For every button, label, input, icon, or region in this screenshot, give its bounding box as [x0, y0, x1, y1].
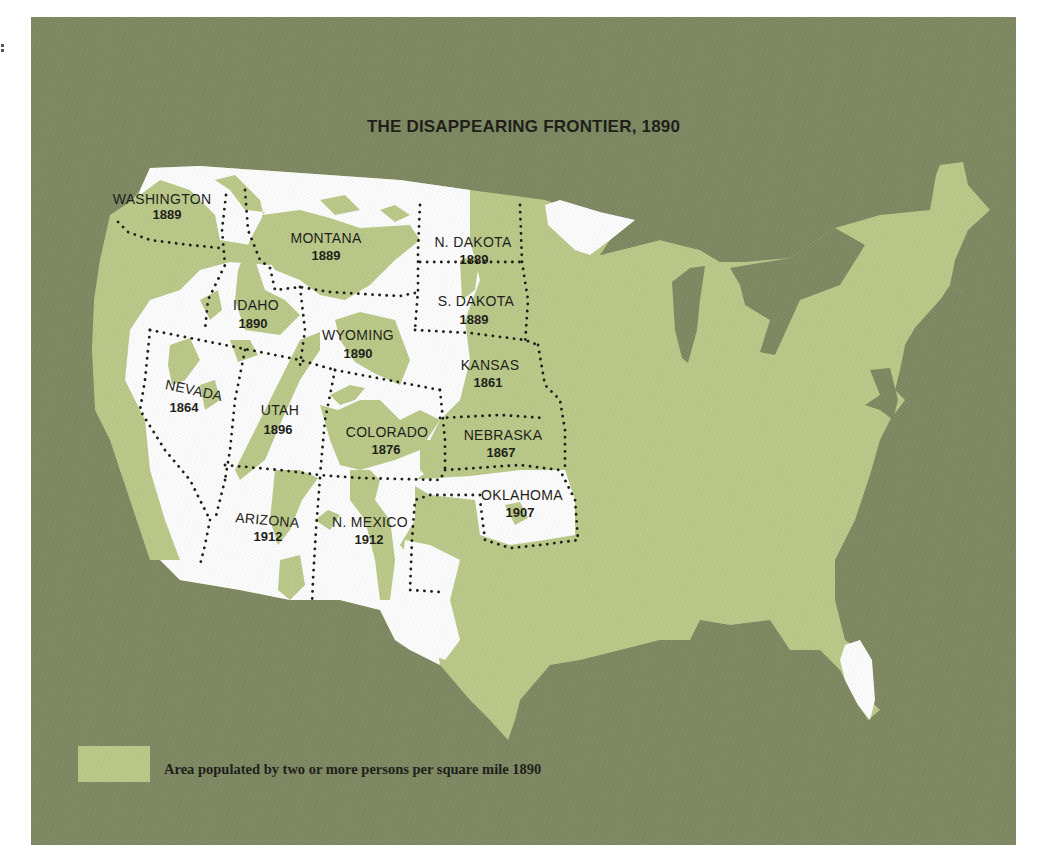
svg-text:WASHINGTON: WASHINGTON	[113, 191, 212, 207]
svg-text:N. DAKOTA: N. DAKOTA	[434, 234, 511, 250]
svg-text:1889: 1889	[312, 248, 341, 263]
legend-label: Area populated by two or more persons pe…	[164, 761, 541, 778]
svg-text:1889: 1889	[460, 252, 489, 267]
svg-text:1867: 1867	[487, 445, 516, 460]
svg-text:WYOMING: WYOMING	[322, 327, 394, 343]
svg-text:1889: 1889	[153, 207, 182, 222]
map-panel: WASHINGTON 1889 MONTANA 1889 N. DAKOTA 1…	[31, 17, 1016, 845]
legend: Area populated by two or more persons pe…	[78, 746, 541, 782]
svg-text:1889: 1889	[460, 312, 489, 327]
svg-text:S. DAKOTA: S. DAKOTA	[438, 293, 515, 309]
frontier-florida	[840, 640, 875, 720]
svg-text:1907: 1907	[506, 505, 535, 520]
svg-text:1864: 1864	[170, 400, 200, 415]
svg-text:KANSAS: KANSAS	[461, 357, 520, 373]
svg-text:MONTANA: MONTANA	[290, 230, 361, 246]
svg-text:N. MEXICO: N. MEXICO	[332, 514, 408, 530]
us-frontier-map: WASHINGTON 1889 MONTANA 1889 N. DAKOTA 1…	[31, 17, 1016, 845]
svg-text:1890: 1890	[344, 346, 373, 361]
page-edge-mark	[0, 42, 6, 56]
svg-text:UTAH: UTAH	[261, 402, 299, 418]
svg-text:OKLAHOMA: OKLAHOMA	[481, 487, 563, 503]
svg-text:COLORADO: COLORADO	[346, 424, 429, 440]
legend-swatch-populated	[78, 746, 150, 782]
svg-text:1890: 1890	[239, 316, 268, 331]
svg-text:1896: 1896	[264, 422, 293, 437]
svg-text:1876: 1876	[372, 442, 401, 457]
svg-text:1861: 1861	[474, 375, 503, 390]
svg-text:IDAHO: IDAHO	[233, 297, 279, 313]
svg-text:1912: 1912	[254, 529, 283, 544]
map-title: THE DISAPPEARING FRONTIER, 1890	[31, 117, 1016, 137]
svg-text:NEBRASKA: NEBRASKA	[464, 427, 543, 443]
svg-text:1912: 1912	[355, 532, 384, 547]
